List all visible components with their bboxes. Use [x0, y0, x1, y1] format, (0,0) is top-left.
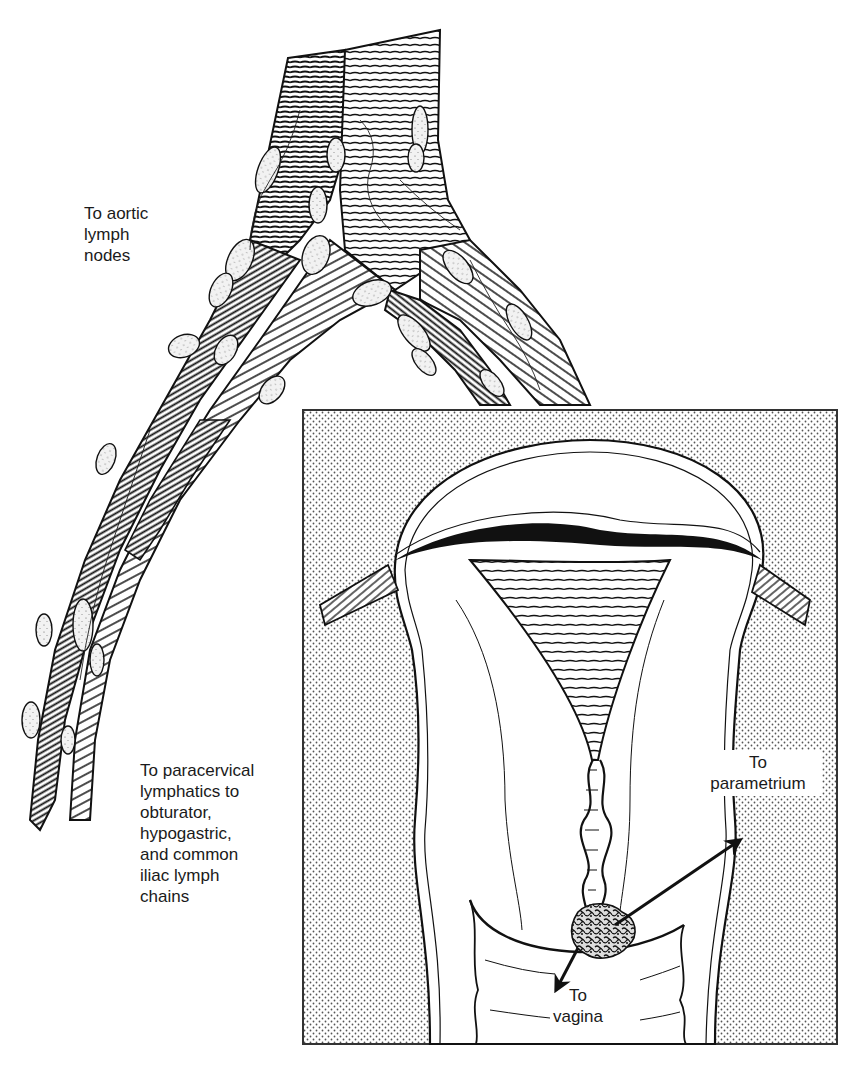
parametrium-label: To parametrium [694, 750, 822, 796]
aortic-nodes-label: To aortic lymph nodes [84, 203, 224, 266]
anatomical-illustration [0, 0, 861, 1070]
uterus-cervix-inset [303, 410, 837, 1044]
paracervical-lymphatics-label: To paracervical lymphatics to obturator,… [140, 760, 305, 907]
vagina-label: To vagina [543, 985, 613, 1027]
